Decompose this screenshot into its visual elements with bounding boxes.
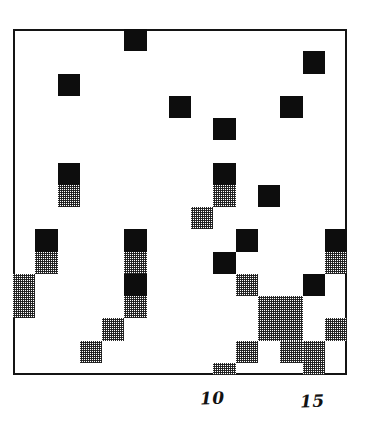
plot-frame xyxy=(13,29,347,375)
scatter-density-figure: 1015 xyxy=(0,0,374,432)
x-axis-tick-label: 15 xyxy=(300,393,325,411)
x-axis-tick-label: 10 xyxy=(200,390,225,408)
